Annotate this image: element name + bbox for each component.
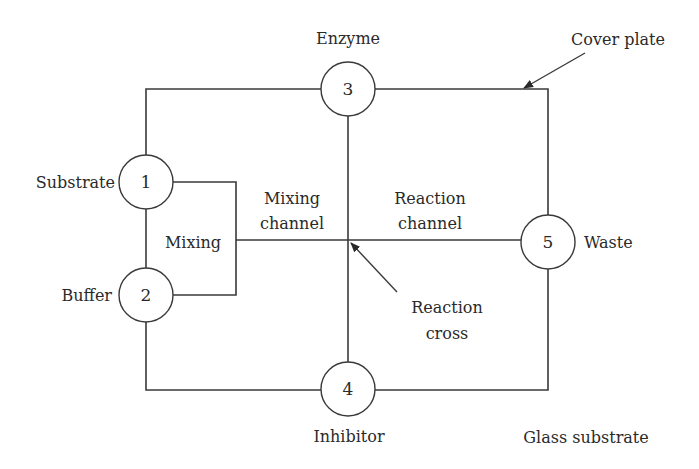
port-2-number: 2 (141, 285, 152, 305)
reaction-cross-label-line2: cross (426, 324, 469, 343)
port-2: 2 (119, 268, 173, 322)
inhibitor-label: Inhibitor (313, 427, 384, 446)
reaction-cross-label-line1: Reaction (411, 298, 483, 317)
bottom-channel (146, 322, 321, 390)
top-channel (146, 89, 321, 155)
substrate-label: Substrate (36, 173, 115, 192)
port-1: 1 (119, 155, 173, 209)
mixing-label: Mixing (165, 233, 221, 252)
port-4-number: 4 (343, 379, 354, 399)
cover-plate-label: Cover plate (571, 30, 665, 49)
port-3: 3 (321, 62, 375, 116)
port-4: 4 (321, 362, 375, 416)
glass-substrate-label: Glass substrate (523, 428, 648, 447)
port-1-number: 1 (141, 172, 152, 192)
reaction-channel-label-line2: channel (398, 214, 462, 233)
mixing-channel-label-line1: Mixing (264, 189, 320, 208)
port-5: 5 (521, 215, 575, 269)
waste-label: Waste (584, 233, 633, 252)
buffer-label: Buffer (61, 286, 112, 305)
port-5-number: 5 (543, 232, 554, 252)
enzyme-label: Enzyme (316, 29, 380, 48)
reaction-cross-arrow-icon (351, 243, 397, 292)
reaction-channel-label-line1: Reaction (394, 189, 466, 208)
mixing-channel-label-line2: channel (260, 214, 324, 233)
cover-plate-arrow-icon (524, 53, 585, 88)
microfluidic-diagram: 1 2 3 4 5 Substrate Buffer Enzyme Inhibi… (0, 0, 699, 469)
port-3-number: 3 (343, 79, 354, 99)
